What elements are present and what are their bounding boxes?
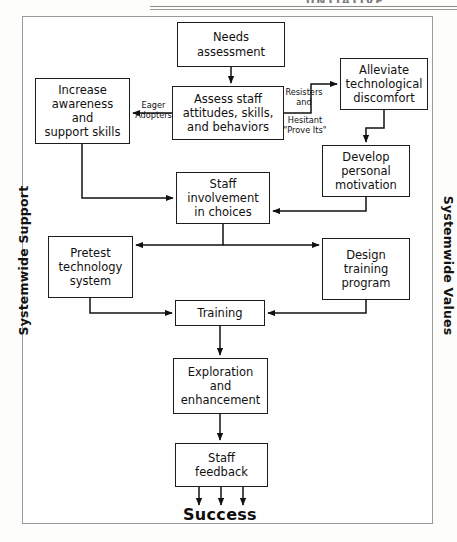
node-training[interactable]: Training — [175, 300, 265, 326]
node-needs-assessment[interactable]: Needs assessment — [177, 22, 285, 67]
node-exploration-enhancement[interactable]: Exploration and enhancement — [173, 358, 268, 414]
header-rule-bottom — [150, 9, 457, 10]
axis-label-systemwide-support: Systemwide Support — [16, 196, 31, 336]
node-pretest-technology[interactable]: Pretest technology system — [48, 236, 133, 298]
node-develop-motivation[interactable]: Develop personal motivation — [322, 145, 410, 197]
header-rule-top — [150, 6, 457, 7]
node-assess-staff[interactable]: Assess staff attitudes, skills, and beha… — [172, 86, 284, 140]
edge-label-resisters-and: Resisters and — [285, 88, 323, 108]
edge-label-eager-adopters: Eager Adopters — [135, 101, 172, 121]
node-alleviate-discomfort[interactable]: Alleviate technological discomfort — [340, 58, 428, 110]
node-increase-awareness[interactable]: Increase awareness and support skills — [35, 78, 130, 144]
outcome-success-label: Success — [165, 505, 275, 524]
edge-label-hesitant-prove-its: Hesitant "Prove Its" — [281, 116, 329, 136]
figure-canvas: UNTIATIVE — [0, 0, 457, 542]
node-design-training[interactable]: Design training program — [322, 238, 410, 300]
node-staff-involvement[interactable]: Staff involvement in choices — [176, 172, 270, 224]
clipped-page-header: UNTIATIVE — [250, 0, 440, 3]
node-staff-feedback[interactable]: Staff feedback — [175, 443, 268, 487]
axis-label-systemwide-values: Systemwide Values — [441, 196, 456, 336]
